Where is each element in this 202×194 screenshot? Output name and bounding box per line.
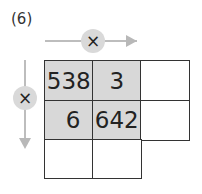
grid-cell-r3c2[interactable] bbox=[92, 139, 142, 179]
grid-cell-r1c3[interactable] bbox=[140, 60, 190, 101]
arrow-right-icon bbox=[126, 35, 137, 47]
arrow-down-icon bbox=[19, 138, 31, 149]
multiply-icon-vertical: × bbox=[13, 86, 37, 110]
grid-cell-r1c2: 3 bbox=[92, 60, 142, 101]
grid-cell-r2c2: 642 bbox=[92, 100, 142, 141]
grid-cell-r2c3[interactable] bbox=[140, 100, 190, 141]
grid-cell-r3c1[interactable] bbox=[44, 139, 94, 179]
problem-label: (6) bbox=[11, 10, 32, 28]
grid-cell-r1c1: 538 bbox=[44, 60, 94, 101]
grid-cell-r2c1: 6 bbox=[44, 100, 94, 141]
multiply-icon-horizontal: × bbox=[81, 29, 105, 53]
